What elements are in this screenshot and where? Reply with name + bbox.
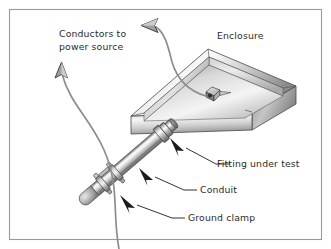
leader-line-fitting <box>186 148 216 164</box>
connector-port <box>208 93 212 97</box>
wire-arrow-up <box>55 62 68 78</box>
leader-arrow-fitting <box>170 138 184 157</box>
wire-arrow-left <box>141 19 158 33</box>
leader-line-ground-clamp <box>137 205 172 218</box>
label-conduit: Conduit <box>200 184 237 195</box>
leader-line-conduit <box>155 177 184 190</box>
label-ground-clamp: Ground clamp <box>188 212 255 223</box>
callout-leader-conduit <box>139 168 197 190</box>
label-conductors-line2: power source <box>59 41 123 52</box>
label-conductors-line1: Conductors to <box>59 28 126 39</box>
callout-leader-ground-clamp <box>120 195 185 218</box>
diagram-figure: Conductors to power source Enclosure Fit… <box>0 0 331 249</box>
conductor-wire-conduit <box>62 74 119 249</box>
leader-arrow-ground-clamp <box>120 195 135 214</box>
label-fitting-under-test: Fitting under test <box>217 158 300 169</box>
conductor-wires <box>62 27 206 249</box>
conduit-assembly <box>72 112 183 212</box>
label-enclosure: Enclosure <box>217 30 264 41</box>
leader-arrow-conduit <box>139 168 153 186</box>
diagram-canvas: Conductors to power source Enclosure Fit… <box>0 0 331 249</box>
